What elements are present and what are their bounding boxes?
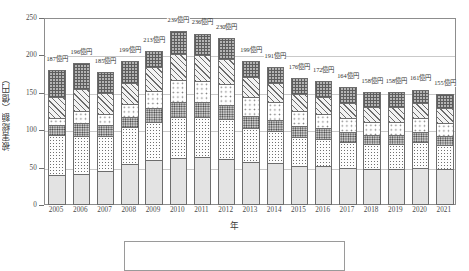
bar-total-label: 187億円 [46, 56, 68, 63]
bar-segment [291, 166, 308, 205]
bar-segment [315, 81, 332, 97]
bar-segment [145, 51, 162, 68]
bar-segment [363, 107, 380, 123]
x-axis-tick-label: 2017 [340, 206, 355, 214]
bar-segment [339, 87, 356, 103]
bar-segment [291, 111, 308, 127]
bar-segment [388, 122, 405, 136]
bar-total-label: 172億円 [313, 67, 335, 74]
bar-segment [339, 103, 356, 119]
bar-2019 [388, 92, 405, 204]
plot-area: 187億円196億円185億円199億円213億円239億円236億円230億円… [44, 18, 456, 205]
bar-segment [218, 105, 235, 120]
bar-total-label: 199億円 [119, 47, 141, 54]
bar-segment [48, 135, 65, 176]
bar-segment [170, 54, 187, 81]
bar-2009 [145, 51, 162, 204]
bar-segment [218, 119, 235, 159]
x-axis-title: 年 [0, 219, 469, 231]
bar-segment [267, 131, 284, 164]
bar-2013 [242, 61, 259, 204]
bar-segment [73, 63, 90, 89]
bar-segment [388, 92, 405, 108]
bar-segment [194, 117, 211, 158]
bar-2010 [170, 31, 187, 204]
bar-segment [388, 169, 405, 205]
bar-segment [48, 70, 65, 98]
bar-segment [121, 127, 138, 164]
bar-segment [218, 159, 235, 205]
bar-segment [363, 144, 380, 170]
y-axis-tick-label: 100 [26, 126, 37, 134]
bar-segment [121, 104, 138, 117]
bar-segment [170, 158, 187, 205]
bar-segment [436, 145, 453, 170]
bar-2008 [121, 61, 138, 204]
bar-total-label: 196億円 [70, 49, 92, 56]
bar-total-label: 213億円 [143, 37, 165, 44]
bar-segment [242, 128, 259, 162]
y-axis: 050100150200250 [0, 0, 44, 205]
bar-segment [121, 164, 138, 205]
bar-segment [339, 168, 356, 205]
bar-segment [267, 67, 284, 83]
bar-segment [291, 78, 308, 94]
bar-segment [48, 97, 65, 119]
bar-segment [170, 117, 187, 159]
bar-2021 [436, 94, 453, 204]
bar-segment [194, 55, 211, 82]
bar-segment [145, 160, 162, 205]
bar-segment [436, 123, 453, 137]
bar-total-label: 230億円 [216, 24, 238, 31]
bar-segment [363, 169, 380, 205]
bar-total-label: 158億円 [361, 78, 383, 85]
bar-segment [315, 139, 332, 167]
bar-segment [170, 31, 187, 55]
bar-segment [97, 171, 114, 205]
bar-total-label: 161億円 [410, 75, 432, 82]
x-axis-tick-label: 2015 [291, 206, 306, 214]
bar-segment [73, 123, 90, 136]
x-axis-tick-label: 2011 [194, 206, 209, 214]
y-axis-tick-label: 250 [26, 14, 37, 22]
bar-segment [363, 122, 380, 136]
bar-segment [412, 90, 429, 104]
x-axis-tick-label: 2016 [315, 206, 330, 214]
x-axis-tick-label: 2018 [364, 206, 379, 214]
bar-segment [218, 59, 235, 85]
bar-total-label: 199億円 [240, 47, 262, 54]
bar-segment [170, 102, 187, 118]
bar-segment [267, 83, 284, 103]
bar-segment [73, 89, 90, 112]
bar-segment [267, 102, 284, 121]
bar-segment [412, 118, 429, 133]
bar-segment [242, 97, 259, 116]
bar-total-label: 176億円 [288, 64, 310, 71]
bar-segment [291, 137, 308, 167]
bar-segment [194, 81, 211, 103]
x-axis-tick-label: 2019 [388, 206, 403, 214]
bar-segment [218, 38, 235, 60]
x-axis-tick-label: 2005 [49, 206, 64, 214]
x-axis-tick-label: 2009 [146, 206, 161, 214]
bar-segment [145, 67, 162, 92]
bar-total-label: 155億円 [434, 80, 456, 87]
bar-segment [363, 92, 380, 108]
bar-segment [436, 94, 453, 109]
bar-2005 [48, 70, 65, 204]
bar-segment [436, 108, 453, 124]
bar-segment [97, 136, 114, 172]
x-axis-tick-label: 2021 [436, 206, 451, 214]
bar-segment [97, 72, 114, 94]
bar-2015 [291, 78, 308, 204]
bar-2006 [73, 63, 90, 204]
bar-segment [194, 157, 211, 205]
bar-segment [412, 142, 429, 169]
bar-2017 [339, 87, 356, 204]
bar-2018 [363, 92, 380, 204]
bar-total-label: 191億円 [264, 53, 286, 60]
bar-segment [73, 111, 90, 124]
bar-segment [218, 84, 235, 106]
bar-segment [121, 61, 138, 83]
